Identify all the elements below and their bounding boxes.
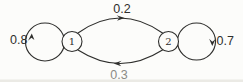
- probability-label-1-self: 0.8: [10, 33, 27, 47]
- probability-label-2-self: 0.7: [217, 34, 234, 48]
- state-2-label: 2: [165, 36, 171, 47]
- scan-artifact-band: [0, 80, 243, 83]
- arrowhead-down-icon: [209, 39, 215, 46]
- markov-chain-figure: 1 2 0.2 0.3 0.8 0.7: [0, 0, 243, 82]
- probability-label-2-to-1: 0.3: [110, 68, 127, 82]
- state-1-label: 1: [69, 36, 75, 47]
- state-1-self-loop-edge: [26, 23, 65, 61]
- state-transition-diagram: 1 2 0.2 0.3 0.8 0.7: [0, 0, 243, 82]
- state-2-self-loop-edge: [178, 23, 216, 60]
- probability-label-1-to-2: 0.2: [113, 2, 130, 16]
- transition-1-to-2-edge: [78, 18, 163, 33]
- arrowhead-up-icon: [28, 34, 34, 41]
